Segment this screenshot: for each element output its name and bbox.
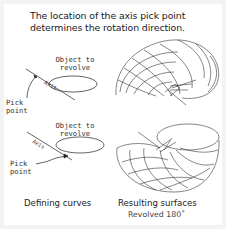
top-object-ellipse bbox=[49, 76, 97, 92]
bottom-pick-leader bbox=[36, 156, 66, 164]
top-revolved-surface bbox=[116, 40, 219, 105]
diagram-graphics bbox=[0, 0, 226, 229]
bottom-object-ellipse bbox=[56, 137, 104, 153]
bottom-revolved-surface bbox=[117, 124, 219, 192]
top-pick-leader bbox=[27, 76, 36, 98]
top-axis-line bbox=[26, 69, 75, 100]
